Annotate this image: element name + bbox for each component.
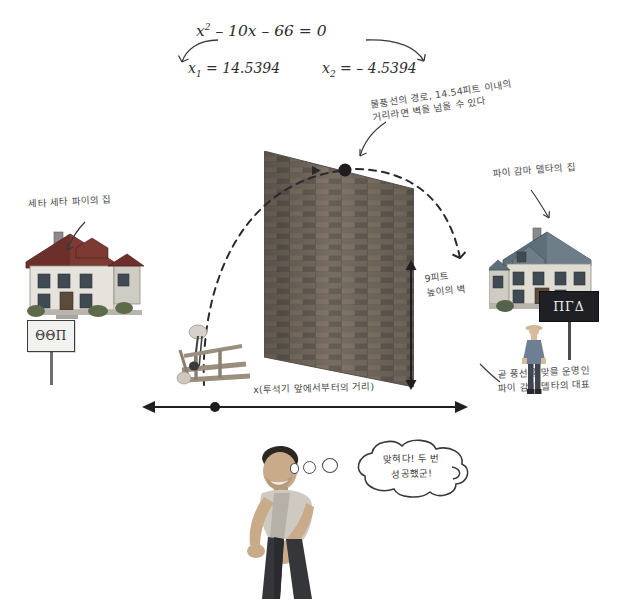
wall-height-label: 9피트 높이의 벽 [424,268,467,301]
wall-height-arrow [400,258,422,392]
thought-dot-medium [303,461,316,474]
right-house-pointer-arrow [525,188,565,224]
root-2: x2 = – 4.5394 [322,60,417,79]
root-1: x1 = 14.5394 [188,60,280,79]
thought-bubble-text: 맞혀다! 두 번 성공했군! [364,450,460,483]
trajectory-pointer-arrow [352,118,398,162]
distance-axis [140,396,470,418]
right-sign-post [568,318,571,360]
celebrating-man-figure [244,437,358,601]
left-house-pointer-arrow [55,218,95,258]
right-house-label: 파이 감마 델타의 집 [492,161,576,181]
water-balloon-apex [339,164,352,177]
right-house-sign: ΠΓΔ [539,291,599,322]
diagram-canvas: x2 – 10x – 66 = 0 x1 = 14.5394 x2 = – 4.… [0,0,642,601]
thought-dot-large [322,458,338,473]
catapult-illustration [176,320,262,388]
left-house-sign: ΘΘΠ [27,320,75,352]
root-2-var: x [322,60,330,76]
root-2-value: = – 4.5394 [336,60,417,76]
root-1-value: = 14.5394 [202,60,281,76]
representative-label: 곧 풍선을 맞을 운명인 파이 감마 델타의 대표 [497,363,591,396]
left-house-label: 세타 세타 파이의 집 [28,194,112,211]
trajectory-annotation: 물풍선의 경로, 14.54피트 이내의 거리라면 벽을 넘을 수 있다 [370,78,515,124]
root-1-var: x [188,60,196,76]
axis-origin-marker [210,402,220,412]
representative-pointer-arrow [478,362,504,388]
thought-bubble: 맞혀다! 두 번 성공했군! [352,437,474,499]
thought-dot-small [290,463,299,474]
